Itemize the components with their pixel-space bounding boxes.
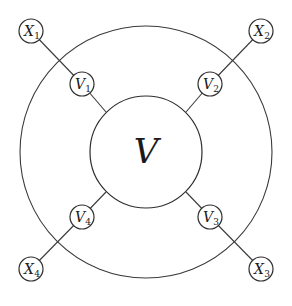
diagram-canvas: V V 1 V 2 V 3 V 4 X 1 X 2 X 3 X 4 [0,0,292,306]
node-v1: V 1 [70,72,94,96]
node-v2: V 2 [198,72,222,96]
node-x4: X 4 [19,257,43,281]
node-v4-sub: 4 [85,217,91,227]
center-node-label: V [134,131,162,171]
node-x3: X 3 [249,257,273,281]
node-x1-sub: 1 [34,31,40,41]
node-v1-sub: 1 [85,84,91,94]
node-x2: X 2 [249,19,273,43]
node-v3: V 3 [198,205,222,229]
node-x4-sub: 4 [34,269,40,279]
node-x2-sub: 2 [264,31,270,41]
node-v4: V 4 [70,205,94,229]
node-v3-sub: 3 [213,217,219,227]
node-v2-sub: 2 [213,84,219,94]
node-x1: X 1 [19,19,43,43]
node-x3-sub: 3 [264,269,270,279]
